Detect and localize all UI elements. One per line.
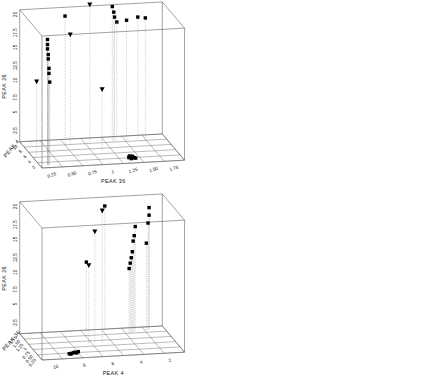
panel-bottom-right: 1.501.2510.750.500.250PEAK 36246810PEAK …	[223, 192, 445, 384]
svg-text:7.5: 7.5	[13, 94, 18, 101]
svg-text:8: 8	[18, 149, 24, 155]
svg-text:1.50: 1.50	[149, 166, 159, 174]
svg-text:PEAK 36: PEAK 36	[101, 178, 126, 184]
svg-text:1: 1	[111, 169, 115, 175]
svg-text:2: 2	[168, 358, 172, 364]
svg-text:17.5: 17.5	[13, 220, 18, 229]
panel-top-right: 108642PEAK 40.250.500.7511.251.501.75PEA…	[223, 0, 445, 192]
svg-text:0.75: 0.75	[87, 169, 97, 177]
svg-text:20: 20	[13, 203, 18, 209]
svg-text:2.5: 2.5	[13, 127, 18, 134]
svg-text:1.75: 1.75	[169, 164, 179, 172]
svg-text:5: 5	[13, 110, 18, 113]
svg-text:17.5: 17.5	[13, 28, 18, 37]
svg-text:4: 4	[139, 359, 143, 365]
svg-text:20: 20	[13, 11, 18, 17]
svg-text:1.25: 1.25	[128, 167, 138, 175]
scatterplot-matrix: 0.250.500.7511.251.501.75PEAK 36246810PE…	[0, 0, 445, 384]
panel-top-left: 0.250.500.7511.251.501.75PEAK 36246810PE…	[0, 0, 223, 192]
svg-text:6: 6	[22, 154, 28, 160]
svg-text:PEAK 26: PEAK 26	[1, 266, 7, 291]
svg-text:0.50: 0.50	[67, 170, 77, 178]
svg-text:15: 15	[13, 44, 18, 50]
svg-text:PEAK 26: PEAK 26	[1, 74, 7, 99]
svg-text:8: 8	[82, 362, 86, 368]
svg-text:10: 10	[13, 77, 18, 83]
svg-text:15: 15	[13, 236, 18, 242]
svg-text:2: 2	[31, 164, 37, 170]
svg-text:12.5: 12.5	[13, 253, 18, 262]
svg-text:PEAK 4: PEAK 4	[103, 370, 124, 376]
svg-text:12.5: 12.5	[13, 61, 18, 70]
svg-text:10: 10	[13, 269, 18, 275]
svg-text:10: 10	[53, 363, 60, 369]
svg-text:5: 5	[13, 302, 18, 305]
svg-text:2.5: 2.5	[13, 319, 18, 326]
svg-text:0.25: 0.25	[47, 171, 57, 179]
svg-text:7.5: 7.5	[13, 286, 18, 293]
panel-bottom-left: 108642PEAK 40.250.500.7511.251.501.75PEA…	[0, 192, 223, 384]
svg-text:6: 6	[111, 361, 115, 367]
svg-text:4: 4	[27, 159, 33, 165]
